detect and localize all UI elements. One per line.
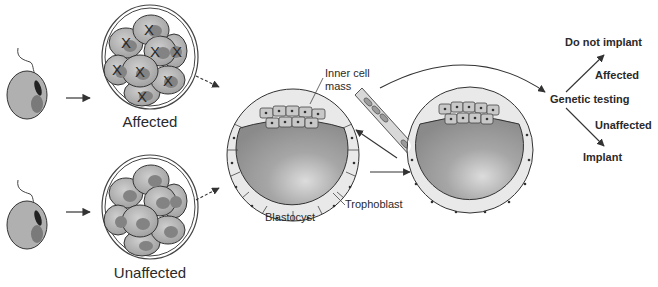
diagram-canvas: X X X X X X X X Affected — [0, 0, 658, 287]
blastocyst-biopsied — [407, 87, 533, 213]
unaffected-label: Unaffected — [114, 264, 186, 281]
svg-text:X: X — [163, 72, 173, 89]
egg-with-sperm-affected — [7, 48, 47, 119]
morula-affected: X X X X X X X X — [102, 5, 198, 109]
genetic-testing-label: Genetic testing — [550, 93, 629, 105]
svg-text:X: X — [112, 61, 122, 78]
affected-outcome-label: Affected — [595, 69, 639, 81]
egg-with-sperm-unaffected — [7, 180, 47, 249]
implant-label: Implant — [583, 151, 622, 163]
svg-text:X: X — [172, 43, 182, 60]
svg-text:X: X — [135, 63, 145, 80]
svg-text:X: X — [150, 43, 160, 60]
svg-text:X: X — [144, 21, 154, 38]
dashed-arrow-top — [196, 76, 219, 87]
svg-text:X: X — [121, 34, 131, 51]
blastocyst-biopsy-source — [227, 89, 359, 221]
morula-unaffected — [102, 155, 198, 259]
dashed-arrow-bottom — [196, 188, 219, 200]
inner-cell-mass-label-line2: mass — [325, 80, 352, 92]
unaffected-outcome-label: Unaffected — [595, 119, 652, 131]
blastocyst-label: Blastocyst — [265, 211, 315, 223]
do-not-implant-label: Do not implant — [565, 36, 642, 48]
inner-cell-mass-label-line1: Inner cell — [325, 67, 370, 79]
trophoblast-label: Trophoblast — [345, 198, 403, 210]
affected-label: Affected — [123, 113, 178, 130]
svg-text:X: X — [137, 88, 147, 105]
pgd-diagram: X X X X X X X X Affected — [0, 0, 658, 287]
